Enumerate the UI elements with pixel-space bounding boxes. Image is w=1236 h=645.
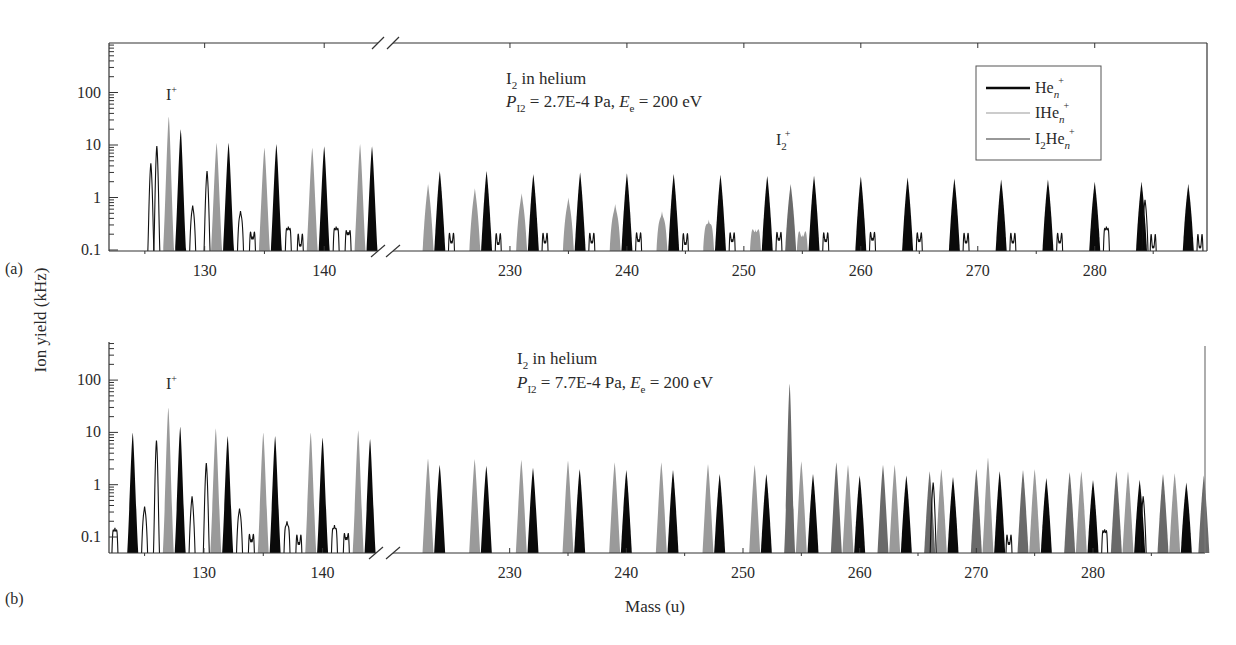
spectrum-peak [211, 143, 222, 251]
spectrum-peak [448, 233, 454, 251]
y-tick-label: 1 [93, 189, 101, 206]
x-tick-label: 260 [848, 564, 872, 581]
spectrum-peak [621, 173, 632, 251]
x-axis-label: Mass (u) [625, 597, 685, 616]
spectrum-peak [1150, 234, 1156, 251]
spectrum-peak [353, 430, 364, 553]
spectrum-peak [831, 462, 842, 553]
spectrum-peak [889, 465, 900, 553]
spectrum-peak [636, 233, 642, 251]
spectrum-peak [785, 184, 796, 251]
spectrum-peak [365, 439, 376, 553]
spectrum-peak [333, 227, 339, 251]
spectrum-peak [222, 436, 233, 553]
spectrum-peak [916, 233, 922, 251]
spectrum-peak [949, 179, 960, 251]
mass-spectrum-figure: Ion yield (kHz) Mass (u) 0.1110100130140… [0, 0, 1236, 645]
spectrum-peak [345, 230, 351, 251]
spectrum-peak [668, 470, 679, 553]
spectrum-peak [296, 535, 302, 553]
spectrum-peak [936, 469, 947, 553]
spectrum-peak [902, 178, 913, 251]
spectrum-peak [784, 384, 795, 553]
spectrum-peak [1158, 474, 1169, 553]
x-tick-label: 280 [1081, 564, 1105, 581]
spectrum-peak [1103, 227, 1109, 251]
panel-b-conditions: PI2 = 7.7E-4 Pa, Ee = 200 eV [516, 373, 714, 395]
panel-a-i2-plus-annotation: I2+ [776, 128, 791, 152]
spectrum-peak [610, 204, 621, 251]
spectrum-peak [163, 407, 174, 553]
panel-b-title: I2 in helium [517, 349, 597, 371]
x-tick-label: 140 [312, 262, 336, 279]
spectrum-peak [1010, 233, 1016, 251]
spectrum-peak [1018, 470, 1029, 553]
y-tick-label: 100 [77, 84, 101, 101]
spectrum-peak [870, 232, 876, 251]
spectrum-peak [656, 462, 667, 553]
spectrum-peak [1123, 471, 1134, 553]
spectrum-peak [258, 432, 269, 553]
spectrum-peak [589, 233, 595, 251]
spectrum-peak [854, 475, 865, 553]
spectrum-peak [423, 184, 434, 251]
spectrum-peak [516, 193, 527, 251]
spectrum-peak [762, 176, 773, 251]
spectrum-peak [481, 466, 492, 553]
spectrum-peak [175, 426, 186, 553]
spectrum-peak [1057, 233, 1063, 251]
spectrum-peak [574, 469, 585, 553]
x-tick-label: 240 [615, 262, 639, 279]
spectrum-peak [609, 462, 620, 553]
spectrum-peak [621, 470, 632, 553]
spectrum-peak [1111, 471, 1122, 553]
spectrum-peak [1136, 182, 1147, 251]
spectrum-peak [142, 507, 148, 553]
spectrum-peak [284, 521, 290, 553]
panel-a-plot: 0.1110100130140230240250260270280 (a) I+… [5, 37, 1207, 279]
spectrum-peak [423, 458, 434, 553]
x-tick-label: 240 [614, 564, 638, 581]
spectrum-peak [714, 474, 725, 553]
spectrum-peak [823, 233, 829, 251]
spectrum-peak [528, 174, 539, 251]
x-tick-label: 230 [498, 262, 522, 279]
spectrum-peak [190, 206, 196, 251]
spectrum-peak [307, 147, 318, 251]
legend: Hen+ IHen+ I2Hen+ [976, 66, 1101, 160]
panel-a-conditions: PI2 = 2.7E-4 Pa, Ee = 200 eV [505, 92, 703, 114]
spectrum-peak [203, 463, 209, 553]
panel-a-i-plus-annotation: I+ [166, 84, 177, 103]
spectrum-peak [983, 458, 994, 553]
x-tick-label: 270 [964, 564, 988, 581]
spectrum-peak [331, 525, 337, 553]
x-tick-label: 230 [498, 564, 522, 581]
spectrum-peak [656, 211, 667, 251]
spectrum-peak [163, 116, 174, 251]
spectrum-peak [249, 232, 255, 251]
spectrum-peak [703, 464, 714, 553]
spectrum-peak [210, 428, 221, 553]
spectrum-peak [148, 163, 154, 251]
y-tick-label: 100 [77, 371, 101, 388]
spectrum-peak [809, 176, 820, 251]
spectrum-peak [994, 471, 1005, 553]
spectrum-peak [223, 143, 234, 251]
spectrum-peak [808, 474, 819, 553]
spectrum-peak [1041, 478, 1052, 553]
x-tick-label: 280 [1083, 262, 1107, 279]
spectrum-peak [355, 144, 366, 251]
panel-b-peaks [112, 384, 1209, 553]
spectrum-peak [270, 436, 281, 553]
spectrum-peak [855, 177, 866, 251]
spectrum-peak [796, 461, 807, 553]
y-tick-label: 0.1 [81, 241, 101, 258]
spectrum-peak [1102, 529, 1108, 553]
x-tick-label: 270 [966, 262, 990, 279]
spectrum-peak [516, 460, 527, 553]
spectrum-peak [434, 171, 445, 251]
spectrum-peak [297, 234, 303, 251]
y-tick-label: 0.1 [81, 528, 101, 545]
spectrum-peak [285, 227, 291, 251]
spectrum-peak [112, 528, 118, 553]
